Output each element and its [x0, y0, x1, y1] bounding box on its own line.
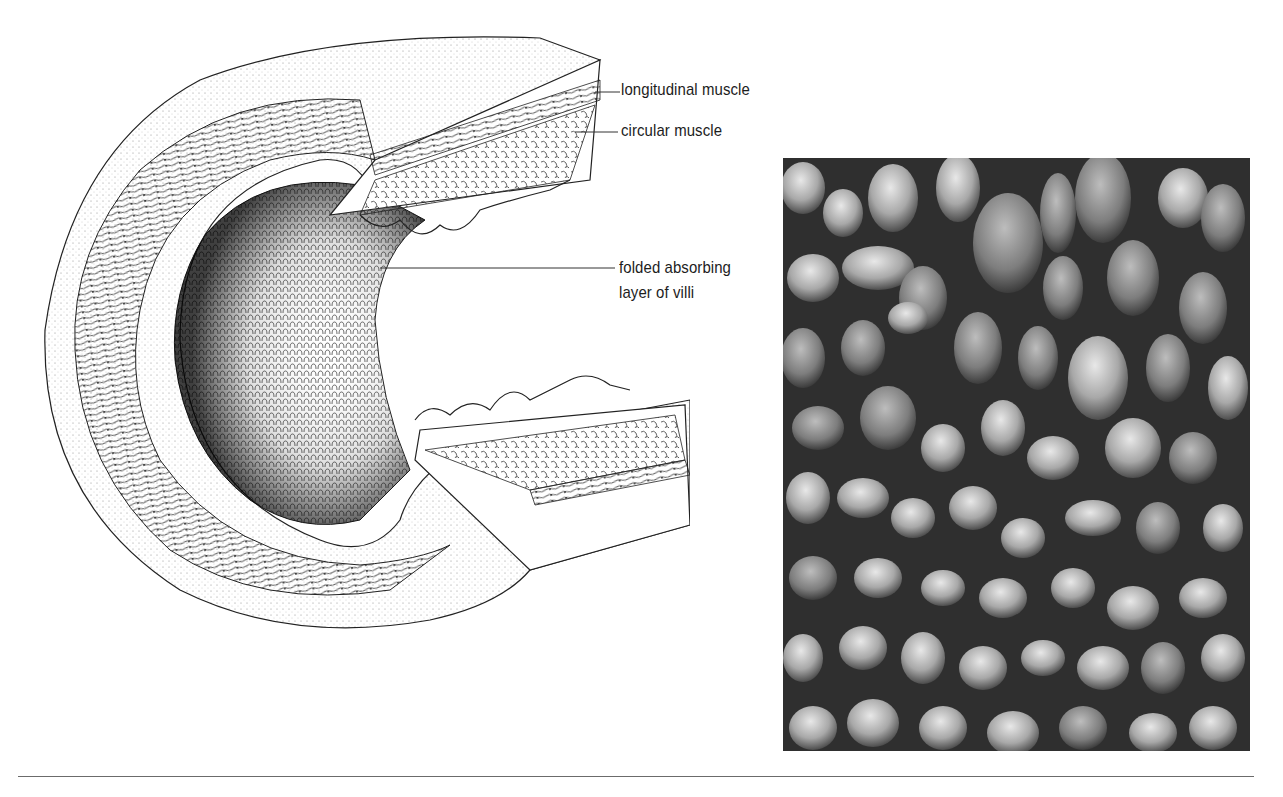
- label-layer-of-villi: layer of villi: [619, 282, 694, 304]
- intestine-cross-section-diagram: [30, 20, 690, 660]
- label-folded-absorbing: folded absorbing: [619, 257, 731, 279]
- label-circular-muscle: circular muscle: [621, 120, 722, 142]
- intestine-illustration: [30, 20, 690, 660]
- label-longitudinal-muscle: longitudinal muscle: [621, 79, 750, 101]
- micrograph-image: [783, 158, 1250, 751]
- bottom-rule-divider: [18, 776, 1254, 777]
- villi-micrograph: [783, 158, 1250, 751]
